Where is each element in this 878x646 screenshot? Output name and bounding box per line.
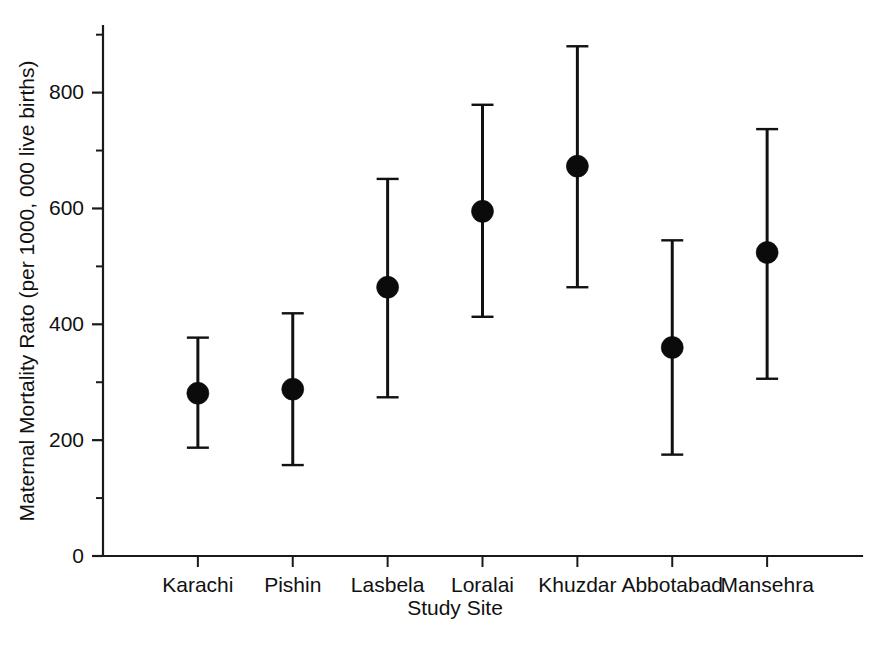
data-point-group <box>472 105 494 317</box>
errorbar-plot: 0200400600800 KarachiPishinLasbelaLorala… <box>0 0 878 646</box>
x-tick-label: Mansehra <box>720 573 814 596</box>
data-point-marker <box>377 276 399 298</box>
x-tick-label: Loralai <box>451 573 514 596</box>
x-tick-label: Pishin <box>264 573 321 596</box>
data-point-marker <box>661 336 683 358</box>
y-tick-label: 200 <box>49 428 84 451</box>
x-tick-label: Karachi <box>162 573 233 596</box>
data-point-marker <box>187 382 209 404</box>
y-tick-label: 600 <box>49 196 84 219</box>
y-tick-label: 0 <box>72 544 84 567</box>
data-series-group <box>187 46 778 465</box>
y-axis-title: Maternal Mortality Rato (per 1000, 000 l… <box>15 60 38 521</box>
chart-container: 0200400600800 KarachiPishinLasbelaLorala… <box>0 0 878 646</box>
x-tick-label: Khuzdar <box>538 573 616 596</box>
y-axis-major-ticks <box>92 93 103 556</box>
x-axis-title: Study Site <box>407 596 503 619</box>
data-point-group <box>282 313 304 465</box>
data-point-marker <box>756 241 778 263</box>
data-point-marker <box>472 200 494 222</box>
x-tick-label: Abbotabad <box>621 573 723 596</box>
data-point-group <box>661 240 683 454</box>
y-axis-tick-labels: 0200400600800 <box>49 80 84 566</box>
data-point-group <box>187 338 209 448</box>
x-axis-tick-labels: KarachiPishinLasbelaLoralaiKhuzdarAbbota… <box>162 573 814 596</box>
y-tick-label: 400 <box>49 312 84 335</box>
data-point-group <box>566 46 588 287</box>
x-axis-ticks <box>198 556 767 567</box>
x-tick-label: Lasbela <box>351 573 425 596</box>
y-tick-label: 800 <box>49 80 84 103</box>
data-point-marker <box>282 378 304 400</box>
data-point-group <box>756 129 778 379</box>
data-point-marker <box>566 155 588 177</box>
data-point-group <box>377 179 399 397</box>
